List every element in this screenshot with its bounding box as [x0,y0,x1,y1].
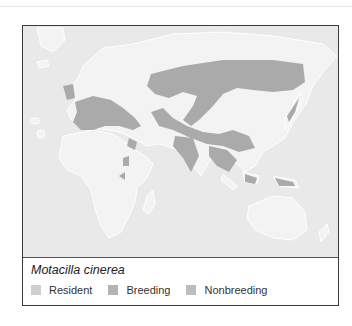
map-svg [23,26,338,257]
legend-item-resident: Resident [31,284,92,296]
swatch-breeding [108,285,118,295]
iceland [37,60,49,68]
legend: Resident Breeding Nonbreeding [31,284,283,296]
species-name: Motacilla cinerea [31,263,125,277]
legend-label-resident: Resident [49,284,92,296]
swatch-nonbreeding [186,285,196,295]
range-map-figure: Motacilla cinerea Resident Breeding Nonb… [22,25,339,306]
legend-label-nonbreeding: Nonbreeding [204,284,267,296]
legend-item-breeding: Breeding [108,284,170,296]
azores [30,118,40,124]
world-range-map [23,26,338,258]
swatch-resident [31,285,41,295]
canary-islands [37,130,45,138]
top-divider [0,6,352,7]
legend-item-nonbreeding: Nonbreeding [186,284,267,296]
legend-label-breeding: Breeding [126,284,170,296]
